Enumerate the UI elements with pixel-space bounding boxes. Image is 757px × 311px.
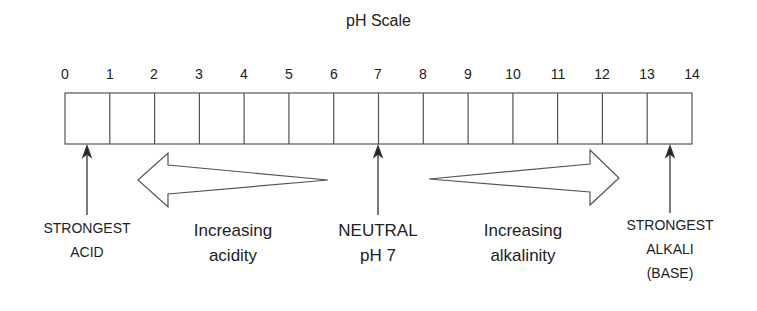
arrow-neutral-icon: [374, 146, 382, 215]
arrow-strongest-acid-icon: [83, 146, 91, 215]
label-increasing-alkalinity: Increasing alkalinity: [458, 218, 588, 268]
label-increasing-acidity: Increasing acidity: [168, 218, 298, 268]
label-strongest-alkali: STRONGEST ALKALI (BASE): [605, 213, 735, 285]
arrow-strongest-alkali-icon: [666, 146, 674, 213]
label-neutral: NEUTRAL pH 7: [313, 218, 443, 268]
increasing-alkalinity-arrow-icon: [429, 150, 619, 205]
increasing-acidity-arrow-icon: [138, 153, 328, 207]
label-strongest-acid: STRONGEST ACID: [22, 216, 152, 264]
scale-bar: [65, 93, 692, 144]
